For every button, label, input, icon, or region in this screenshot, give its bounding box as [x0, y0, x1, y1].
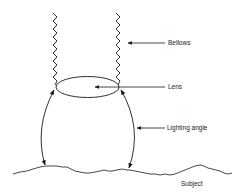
right-lighting-arc-arrow [121, 90, 134, 168]
bellows-lens-diagram [0, 0, 245, 196]
subject-surface-line [13, 165, 232, 175]
left-lighting-arc-arrow [41, 90, 54, 165]
left-bellows-zigzag [53, 13, 57, 85]
right-bellows-zigzag [116, 13, 120, 85]
bellows-label: Bellows [168, 40, 190, 47]
subject-label: Subject [181, 181, 203, 188]
lens-label: Lens [168, 84, 182, 91]
lighting-angle-label: Lighting angle [167, 125, 207, 132]
